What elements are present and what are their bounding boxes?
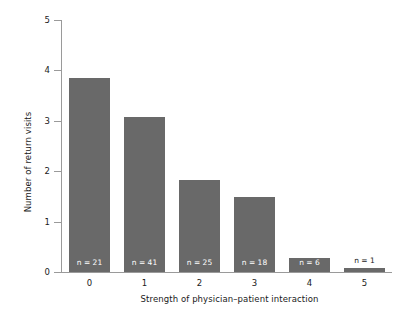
y-tick-mark xyxy=(54,121,61,122)
y-tick-label: 3 xyxy=(30,117,50,126)
y-tick-mark xyxy=(54,20,61,21)
bar-count-label: n = 1 xyxy=(344,257,385,265)
y-tick-mark xyxy=(54,222,61,223)
y-tick-label: 1 xyxy=(30,218,50,227)
bar-count-label: n = 21 xyxy=(69,259,110,267)
x-tick-label: 4 xyxy=(289,279,330,288)
x-tick-label: 0 xyxy=(69,279,110,288)
bar-count-label: n = 41 xyxy=(124,259,165,267)
x-axis-title: Strength of physician–patient interactio… xyxy=(62,294,397,304)
bar-count-label: n = 18 xyxy=(234,259,275,267)
bar xyxy=(69,78,110,272)
y-tick-label: 2 xyxy=(30,167,50,176)
y-tick-label: 5 xyxy=(30,16,50,25)
bar-count-label: n = 25 xyxy=(179,259,220,267)
x-tick-label: 3 xyxy=(234,279,275,288)
x-axis-line xyxy=(61,272,392,273)
x-tick-label: 2 xyxy=(179,279,220,288)
bar-chart: Number of return visits 012345 n = 21n =… xyxy=(0,0,405,324)
bar xyxy=(124,117,165,272)
bar-count-label: n = 6 xyxy=(289,259,330,267)
y-axis-line xyxy=(61,20,62,273)
y-tick-label: 4 xyxy=(30,66,50,75)
x-tick-label: 1 xyxy=(124,279,165,288)
y-tick-mark xyxy=(54,70,61,71)
y-tick-mark xyxy=(54,272,61,273)
y-tick-mark xyxy=(54,171,61,172)
bar xyxy=(344,268,385,272)
y-tick-label: 0 xyxy=(30,268,50,277)
x-tick-label: 5 xyxy=(344,279,385,288)
